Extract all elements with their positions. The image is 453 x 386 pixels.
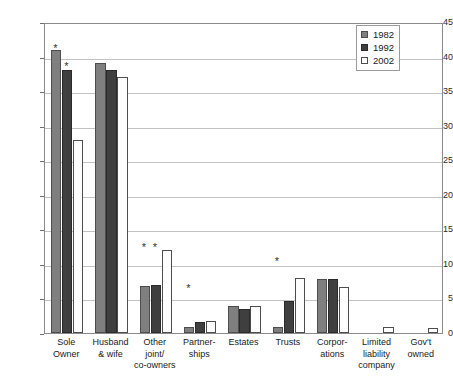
bar-1982: [273, 327, 284, 333]
x-tick-label: SoleOwner: [44, 337, 88, 360]
bar-2002: [117, 77, 128, 333]
x-tick-label-line: Gov't: [399, 337, 443, 349]
bar-2002: [162, 250, 173, 333]
x-tick-label-line: Estates: [221, 337, 265, 349]
x-tick-label-line: ships: [177, 349, 221, 361]
bar-2002: [73, 140, 84, 334]
x-tick-label-line: Trusts: [266, 337, 310, 349]
bar-1982: [95, 63, 106, 333]
bar-1992: [62, 70, 73, 333]
x-tick-label-line: co-owners: [133, 360, 177, 372]
x-tick-label: Otherjoint/co-owners: [133, 337, 177, 372]
bar-2002: [339, 287, 350, 333]
bar-1992: [151, 285, 162, 333]
significance-asterisk-icon: *: [275, 258, 279, 264]
bar-1982: [317, 279, 328, 333]
x-tick-label-line: Husband: [88, 337, 132, 349]
chart-legend: 1982 1992 2002: [356, 25, 400, 71]
x-tick-label-line: & wife: [88, 349, 132, 361]
legend-label-1982: 1982: [373, 29, 394, 40]
legend-label-1992: 1992: [373, 42, 394, 53]
x-tick-label-line: company: [354, 360, 398, 372]
x-tick-label-line: Partner-: [177, 337, 221, 349]
x-tick-label-line: ations: [310, 349, 354, 361]
x-tick-label-line: Corpor-: [310, 337, 354, 349]
bar-2002: [206, 321, 217, 333]
bar-1992: [284, 301, 295, 333]
legend-swatch-1992-icon: [361, 44, 368, 51]
bar-1982: [51, 50, 62, 333]
x-tick-label-line: joint/: [133, 349, 177, 361]
bar-1992: [328, 279, 339, 333]
x-tick-label-line: Limited: [354, 337, 398, 349]
bar-1992: [239, 309, 250, 333]
significance-asterisk-icon: *: [142, 244, 146, 250]
x-tick-label-line: Owner: [44, 349, 88, 361]
bar-1992: [106, 70, 117, 333]
legend-label-2002: 2002: [373, 55, 394, 66]
x-tick-label: Limitedliabilitycompany: [354, 337, 398, 372]
bar-2002: [428, 328, 439, 333]
significance-asterisk-icon: *: [64, 63, 68, 69]
x-tick-label: Gov'towned: [399, 337, 443, 360]
legend-item-1992: 1992: [361, 41, 394, 54]
x-tick-label: Husband& wife: [88, 337, 132, 360]
x-tick-label-line: Other: [133, 337, 177, 349]
bar-2002: [250, 306, 261, 333]
bar-chart: Percentage 051015202530354045 ****** Sol…: [0, 0, 453, 386]
x-tick-label: Estates: [221, 337, 265, 349]
x-axis-tick-labels: SoleOwnerHusband& wifeOtherjoint/co-owne…: [44, 337, 443, 385]
legend-swatch-1982-icon: [361, 31, 368, 38]
bar-1982: [184, 327, 195, 333]
significance-asterisk-icon: *: [186, 285, 190, 291]
x-tick-label-line: owned: [399, 349, 443, 361]
bar-1982: [140, 286, 151, 333]
significance-asterisk-icon: *: [53, 45, 57, 51]
y-tick-mark: [40, 334, 44, 335]
bar-1992: [195, 322, 206, 333]
legend-swatch-2002-icon: [361, 57, 368, 64]
bar-2002: [383, 327, 394, 333]
x-tick-label-line: Sole: [44, 337, 88, 349]
legend-item-2002: 2002: [361, 54, 394, 67]
legend-item-1982: 1982: [361, 28, 394, 41]
significance-asterisk-icon: *: [153, 244, 157, 250]
bar-2002: [295, 278, 306, 333]
x-tick-label: Trusts: [266, 337, 310, 349]
x-tick-label: Corpor-ations: [310, 337, 354, 360]
bar-1982: [228, 306, 239, 333]
x-tick-label: Partner-ships: [177, 337, 221, 360]
x-tick-label-line: liability: [354, 349, 398, 361]
